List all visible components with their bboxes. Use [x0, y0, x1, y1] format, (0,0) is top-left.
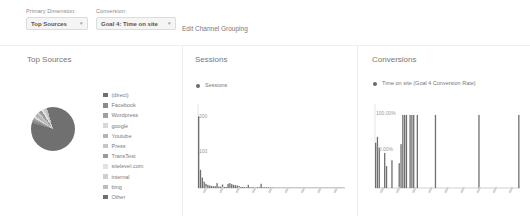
chart-bar: [404, 115, 405, 188]
sessions-chart[interactable]: [195, 104, 345, 204]
x-tick-label: [462, 188, 464, 192]
chart-bar: [207, 185, 208, 188]
legend-swatch-icon: [103, 154, 108, 159]
chart-bar: [417, 115, 418, 188]
pie-legend-item[interactable]: Youtube: [103, 131, 175, 141]
control-bar: Primary Dimension: Top Sources ▾ Convers…: [0, 0, 530, 45]
chart-bar: [242, 187, 243, 188]
panel-title-conversions: Conversions: [372, 55, 416, 64]
chart-bar: [257, 187, 258, 188]
chart-bar: [413, 115, 414, 188]
pie-legend-item[interactable]: Wordpress: [103, 110, 175, 120]
x-tick-label: [446, 188, 448, 192]
chart-bar: [235, 185, 236, 188]
chart-bar: [251, 187, 252, 188]
conversion-label: Conversion:: [96, 8, 176, 14]
y-axis-tick-label: 50.00%: [376, 146, 393, 152]
x-tick-label: [494, 188, 496, 192]
chart-bar: [399, 163, 400, 188]
pie-legend-label: Press: [112, 143, 126, 149]
pie-chart-graphic: [31, 107, 75, 151]
chart-bar: [240, 187, 241, 188]
pie-legend-label: Other: [112, 194, 126, 200]
legend-swatch-icon: [103, 134, 108, 139]
conversion-select[interactable]: Goal 4: Time on site ▾: [96, 17, 176, 30]
pie-legend-item[interactable]: internal: [103, 172, 175, 182]
sessions-legend[interactable]: Sessions: [196, 82, 316, 89]
x-tick-label: [397, 188, 399, 192]
x-tick-label: [429, 188, 431, 192]
pie-legend-label: Facebook: [112, 102, 136, 108]
pie-legend-label: Wordpress: [112, 112, 139, 118]
chart-bar: [400, 144, 401, 188]
conversions-legend-label: Time on site (Goal 4 Conversion Rate): [382, 80, 476, 87]
chart-bar: [259, 187, 260, 188]
chart-bar: [406, 115, 407, 188]
legend-swatch-icon: [103, 93, 108, 98]
chart-bar: [231, 184, 232, 188]
chart-bar: [248, 185, 249, 188]
legend-dot-icon: [373, 82, 377, 86]
legend-swatch-icon: [103, 164, 108, 169]
conversions-legend[interactable]: Time on site (Goal 4 Conversion Rate): [373, 80, 505, 87]
x-tick-label: [381, 188, 383, 192]
pie-legend-label: google: [112, 123, 129, 129]
pie-legend: (direct)FacebookWordpressgoogleYoutubePr…: [103, 90, 175, 202]
chart-bar: [233, 185, 234, 188]
chart-bar: [220, 187, 221, 188]
chart-bar: [402, 115, 403, 188]
panels-container: Top Sources (direct)FacebookWordpressgoo…: [0, 46, 530, 216]
legend-swatch-icon: [103, 185, 108, 190]
chart-bar: [411, 115, 412, 188]
chart-bar: [226, 187, 227, 188]
chart-bar: [224, 187, 225, 188]
pie-legend-item[interactable]: sitelevel.com: [103, 161, 175, 171]
chart-bar: [266, 187, 267, 188]
panel-sessions: Sessions Sessions 100200: [182, 46, 357, 216]
chart-bar: [202, 178, 203, 189]
chart-bar: [391, 160, 392, 188]
chart-bar: [216, 183, 217, 188]
chart-bar: [213, 186, 214, 188]
conversion-value: Goal 4: Time on site: [101, 21, 158, 27]
panel-title-sessions: Sessions: [195, 55, 227, 64]
x-tick-label: [286, 188, 288, 192]
y-axis-tick-label: 100.00%: [376, 110, 396, 116]
chart-bar: [268, 187, 269, 188]
x-tick-label: [253, 188, 255, 192]
x-tick-label: [335, 188, 337, 192]
pie-legend-item[interactable]: (direct): [103, 90, 175, 100]
pie-legend-item[interactable]: google: [103, 121, 175, 131]
pie-chart[interactable]: [31, 107, 75, 151]
legend-swatch-icon: [103, 174, 108, 179]
legend-dot-icon: [196, 84, 200, 88]
conversions-chart-svg: [372, 104, 520, 204]
legend-swatch-icon: [103, 103, 108, 108]
pie-legend-item[interactable]: Facebook: [103, 100, 175, 110]
pie-legend-item[interactable]: Other: [103, 192, 175, 202]
primary-dimension-select[interactable]: Top Sources ▾: [26, 17, 88, 30]
pie-legend-label: Youtube: [112, 133, 132, 139]
x-tick-label: [237, 188, 239, 192]
primary-dimension-value: Top Sources: [31, 21, 67, 27]
chart-bar: [227, 184, 228, 188]
pie-legend-item[interactable]: Press: [103, 141, 175, 151]
x-tick-label: [221, 188, 223, 192]
conversions-chart[interactable]: [372, 104, 520, 204]
pie-legend-item[interactable]: TransTest: [103, 151, 175, 161]
y-axis-tick-label: 100: [199, 148, 207, 154]
x-tick-label: [204, 188, 206, 192]
panel-title-top-sources: Top Sources: [27, 55, 71, 64]
chart-bar: [209, 186, 210, 188]
x-tick-label: [302, 188, 304, 192]
chart-bar: [518, 115, 519, 188]
chart-bar: [260, 184, 261, 188]
x-tick-label: [270, 188, 272, 192]
chart-bar: [435, 115, 436, 188]
chart-bar: [200, 170, 201, 188]
pie-legend-item[interactable]: bing: [103, 182, 175, 192]
edit-channel-grouping-link[interactable]: Edit Channel Grouping: [182, 25, 248, 32]
primary-dimension-label: Primary Dimension:: [26, 8, 88, 14]
chart-bar: [244, 187, 245, 188]
chart-bar: [264, 187, 265, 188]
